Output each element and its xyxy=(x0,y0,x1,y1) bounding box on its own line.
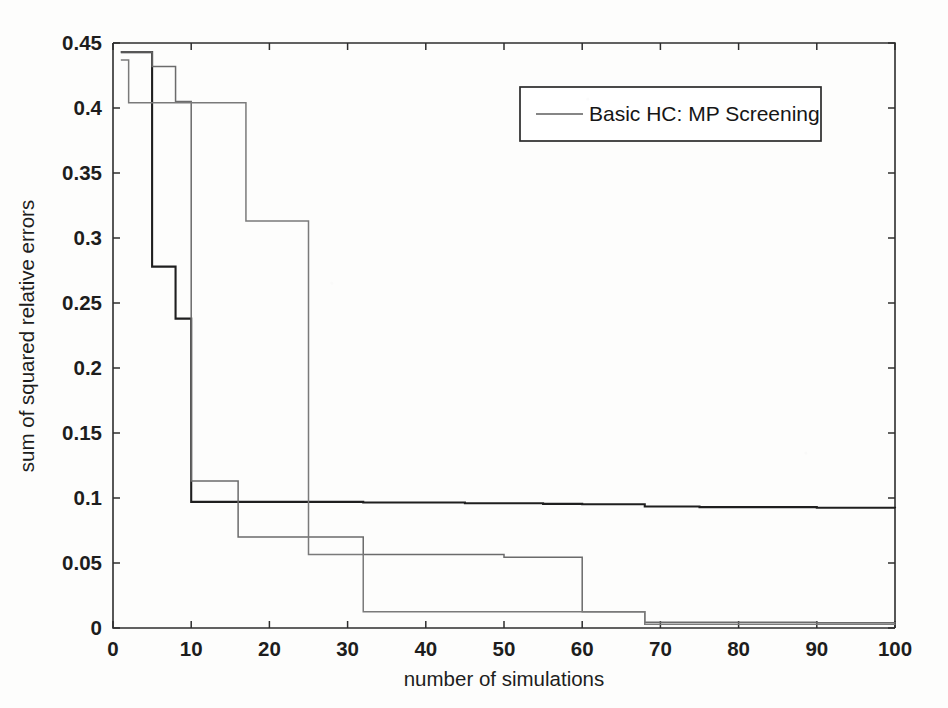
y-tick-label: 0.15 xyxy=(62,421,102,444)
x-tick-labels: 0102030405060708090100 xyxy=(107,637,912,660)
y-tick-labels: 00.050.10.150.20.250.30.350.40.45 xyxy=(62,31,103,639)
y-tick-label: 0.35 xyxy=(62,161,102,184)
x-tick-label: 80 xyxy=(727,637,750,660)
x-tick-label: 50 xyxy=(493,637,516,660)
y-tick-label: 0 xyxy=(91,616,102,639)
y-axis-title: sum of squared relative errors xyxy=(15,200,38,472)
x-tick-label: 70 xyxy=(649,637,672,660)
x-axis-title: number of simulations xyxy=(404,667,605,690)
y-tick-label: 0.3 xyxy=(74,226,103,249)
chart-legend: Basic HC: MP Screening xyxy=(520,87,821,141)
y-tick-label: 0.45 xyxy=(62,31,102,54)
y-tick-label: 0.1 xyxy=(74,486,103,509)
series-run-3-light xyxy=(121,60,895,625)
legend-entry-label: Basic HC: MP Screening xyxy=(589,102,820,125)
x-tick-label: 0 xyxy=(107,637,118,660)
x-tick-label: 90 xyxy=(805,637,828,660)
x-tick-label: 40 xyxy=(414,637,437,660)
x-tick-label: 20 xyxy=(258,637,281,660)
x-tick-label: 60 xyxy=(571,637,594,660)
figure-canvas: 0102030405060708090100 00.050.10.150.20.… xyxy=(0,0,948,708)
y-tick-label: 0.25 xyxy=(62,291,102,314)
y-tick-label: 0.05 xyxy=(62,551,102,574)
x-tick-label: 10 xyxy=(180,637,203,660)
x-tick-label: 30 xyxy=(336,637,359,660)
x-tick-label: 100 xyxy=(878,637,912,660)
y-tick-label: 0.4 xyxy=(74,96,103,119)
line-chart: 0102030405060708090100 00.050.10.150.20.… xyxy=(0,0,948,708)
y-tick-label: 0.2 xyxy=(74,356,103,379)
